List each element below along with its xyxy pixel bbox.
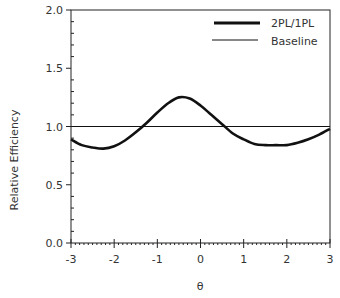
legend: 2PL/1PL Baseline — [212, 17, 318, 48]
x-tick-label: 1 — [240, 253, 247, 266]
x-tick-label: 2 — [283, 253, 290, 266]
y-tick-label: 2.0 — [46, 4, 64, 17]
x-tick-label: 0 — [197, 253, 204, 266]
legend-label-2pl-1pl: 2PL/1PL — [271, 17, 315, 30]
x-tick-label: -3 — [66, 253, 77, 266]
series-2pl-1pl-line — [71, 97, 330, 149]
y-axis-title: Relative Efficiency — [8, 109, 21, 210]
y-tick-label: 1.0 — [46, 121, 64, 134]
x-axis-title: θ — [197, 280, 204, 293]
plot-lines — [71, 97, 330, 149]
relative-efficiency-chart: -3-2-101230.00.51.01.52.0 2PL/1PL Baseli… — [0, 0, 340, 298]
legend-label-baseline: Baseline — [271, 35, 318, 48]
y-tick-label: 0.0 — [46, 237, 64, 250]
y-tick-label: 1.5 — [46, 62, 64, 75]
x-tick-label: -1 — [152, 253, 163, 266]
x-tick-label: 3 — [327, 253, 334, 266]
x-tick-label: -2 — [109, 253, 120, 266]
y-tick-label: 0.5 — [46, 179, 64, 192]
